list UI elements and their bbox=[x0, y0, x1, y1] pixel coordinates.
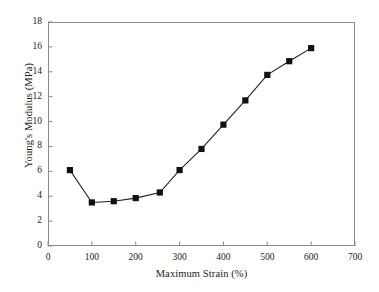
data-point-marker bbox=[157, 189, 163, 195]
x-tick-label: 500 bbox=[250, 253, 284, 263]
chart-figure: 024681012141618 0100200300400500600700 Y… bbox=[0, 0, 379, 292]
y-tick-label: 18 bbox=[16, 17, 42, 27]
data-point-marker bbox=[220, 122, 226, 128]
data-point-marker bbox=[133, 195, 139, 201]
data-point-marker bbox=[286, 58, 292, 64]
chart-canvas bbox=[0, 0, 379, 292]
y-axis-title: Young's Modulus (MPa) bbox=[23, 36, 34, 196]
x-axis-ticks bbox=[48, 242, 355, 247]
data-point-marker bbox=[89, 199, 95, 205]
data-point-marker bbox=[67, 167, 73, 173]
data-point-marker bbox=[242, 97, 248, 103]
y-tick-label: 0 bbox=[16, 241, 42, 251]
data-point-marker bbox=[264, 72, 270, 78]
x-tick-label: 400 bbox=[206, 253, 240, 263]
x-tick-label: 300 bbox=[163, 253, 197, 263]
x-axis-title: Maximum Strain (%) bbox=[48, 268, 355, 279]
x-tick-label: 100 bbox=[75, 253, 109, 263]
data-point-marker bbox=[111, 198, 117, 204]
x-tick-label: 0 bbox=[31, 253, 65, 263]
x-tick-label: 200 bbox=[119, 253, 153, 263]
y-tick-label: 2 bbox=[16, 216, 42, 226]
x-tick-label: 600 bbox=[294, 253, 328, 263]
data-point-marker bbox=[176, 167, 182, 173]
data-series-line bbox=[70, 48, 311, 202]
y-axis-ticks bbox=[48, 22, 53, 246]
data-point-marker bbox=[308, 45, 314, 51]
x-tick-label: 700 bbox=[338, 253, 372, 263]
data-point-marker bbox=[198, 146, 204, 152]
